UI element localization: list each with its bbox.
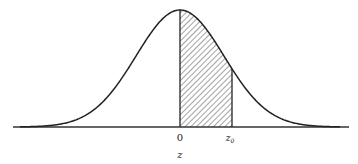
z0-label: z0 xyxy=(225,133,235,144)
axis-variable-label: z xyxy=(176,149,183,160)
normal-curve-diagram: 0 z0 z xyxy=(0,0,358,164)
origin-label: 0 xyxy=(177,132,183,143)
